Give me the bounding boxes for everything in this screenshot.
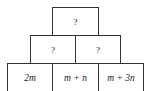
- cell-label-m-plus-3n: m + 3n: [107, 73, 135, 83]
- cell-label: ?: [74, 17, 78, 27]
- pyramid-middle-right-cell: ?: [75, 35, 121, 64]
- pyramid-bottom-right-cell: m + 3n: [98, 63, 144, 91]
- pyramid-top-cell: ?: [52, 7, 99, 36]
- cell-label-m-plus-n: m + n: [64, 73, 87, 83]
- cell-label: ?: [96, 45, 100, 55]
- cell-label: ?: [51, 45, 55, 55]
- pyramid-bottom-middle-cell: m + n: [52, 63, 99, 91]
- pyramid-bottom-left-cell: 2m: [7, 63, 53, 91]
- pyramid-middle-left-cell: ?: [30, 35, 76, 64]
- cell-label-2m: 2m: [24, 73, 36, 83]
